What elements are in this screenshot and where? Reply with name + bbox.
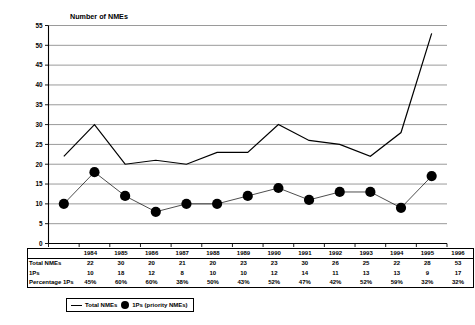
data-point-marker: [243, 191, 253, 201]
table-cell-ip: 11: [320, 269, 351, 278]
chart-legend: Total NMEs 1Ps (priority NMEs): [66, 298, 194, 312]
y-tick-label: 35: [35, 101, 43, 108]
y-tick-label: 55: [35, 22, 43, 29]
table-cell-ip: 10: [228, 269, 259, 278]
data-point-marker: [181, 199, 191, 209]
table-cell-total: 30: [289, 259, 320, 269]
table-cell-pct: 42%: [320, 278, 351, 288]
table-cell-pct: 38%: [167, 278, 198, 288]
table-cell-ip: 13: [351, 269, 382, 278]
y-tick-label: 5: [39, 220, 43, 227]
legend-entry-total-nmes: Total NMEs: [71, 301, 117, 309]
y-tick-label: 25: [35, 141, 43, 148]
circle-marker-icon: [121, 301, 129, 309]
table-row-total-nmes: Total NMEs 22302021202323302625222853: [28, 259, 474, 269]
chart-page: 0510152025303540455055 Number of NMEs 19…: [0, 0, 475, 325]
data-point-marker: [120, 191, 130, 201]
y-tick-label: 50: [35, 42, 43, 49]
table-cell-pct: 45%: [75, 278, 106, 288]
line-chart-svg: 0510152025303540455055 Number of NMEs: [0, 0, 475, 252]
table-cell-total: 20: [198, 259, 229, 269]
table-cell-total: 22: [75, 259, 106, 269]
table-row-ips: 1Ps 101812810101214111313917: [28, 269, 474, 278]
data-table: 1984198519861987198819891990199119921993…: [27, 248, 474, 288]
table-cell-year: 1995: [412, 249, 443, 259]
table-rowhead-percentage-ips: Percentage 1Ps: [28, 278, 76, 288]
data-point-marker: [335, 187, 345, 197]
table-cell-total: 30: [106, 259, 137, 269]
table-rowhead-empty: [28, 249, 76, 259]
table-cell-ip: 13: [381, 269, 412, 278]
table-cell-ip: 18: [106, 269, 137, 278]
table-cell-pct: 60%: [136, 278, 167, 288]
table-cell-total: 26: [320, 259, 351, 269]
table-cell-year: 1989: [228, 249, 259, 259]
table-cell-total: 28: [412, 259, 443, 269]
data-point-marker: [273, 183, 283, 193]
table-cell-ip: 12: [136, 269, 167, 278]
table-cell-ip: 10: [75, 269, 106, 278]
data-point-marker: [396, 203, 406, 213]
table-cell-year: 1984: [75, 249, 106, 259]
table-cell-total: 21: [167, 259, 198, 269]
table-cell-total: 53: [443, 259, 474, 269]
plot-area: 0510152025303540455055 Number of NMEs: [0, 0, 475, 252]
table-cell-ip: 10: [198, 269, 229, 278]
table-cell-total: 22: [381, 259, 412, 269]
table-cell-pct: 60%: [106, 278, 137, 288]
table-row-years: 1984198519861987198819891990199119921993…: [28, 249, 474, 259]
table-cell-year: 1985: [106, 249, 137, 259]
y-tick-label: 40: [35, 81, 43, 88]
table-cell-ip: 17: [443, 269, 474, 278]
table-cell-year: 1993: [351, 249, 382, 259]
table-cell-pct: 47%: [289, 278, 320, 288]
y-tick-label: 0: [39, 240, 43, 247]
table-cell-pct: 32%: [412, 278, 443, 288]
table-cell-ip: 9: [412, 269, 443, 278]
data-point-marker: [212, 199, 222, 209]
table-cell-year: 1992: [320, 249, 351, 259]
legend-entry-priority-nmes: 1Ps (priority NMEs): [121, 301, 187, 309]
table-cell-pct: 50%: [198, 278, 229, 288]
table-cell-year: 1991: [289, 249, 320, 259]
table-cell-year: 1996: [443, 249, 474, 259]
table-cell-year: 1988: [198, 249, 229, 259]
table-cell-ip: 8: [167, 269, 198, 278]
table-cell-pct: 43%: [228, 278, 259, 288]
legend-label-total-nmes: Total NMEs: [85, 301, 117, 309]
y-axis-tick-labels: 0510152025303540455055: [35, 22, 43, 247]
table-cell-ip: 12: [259, 269, 290, 278]
chart-title: Number of NMEs: [70, 12, 128, 21]
table-rowhead-total-nmes: Total NMEs: [28, 259, 76, 269]
table-cell-total: 23: [259, 259, 290, 269]
table-row-percentage-ips: Percentage 1Ps 45%60%60%38%50%43%52%47%4…: [28, 278, 474, 288]
data-point-marker: [59, 199, 69, 209]
table-rowhead-ips: 1Ps: [28, 269, 76, 278]
table-cell-year: 1987: [167, 249, 198, 259]
line-swatch-icon: [71, 305, 82, 306]
table-cell-ip: 14: [289, 269, 320, 278]
table-cell-year: 1986: [136, 249, 167, 259]
table-cell-year: 1990: [259, 249, 290, 259]
table-cell-pct: 32%: [443, 278, 474, 288]
table-cell-pct: 52%: [351, 278, 382, 288]
y-tick-label: 30: [35, 121, 43, 128]
data-point-marker: [304, 195, 314, 205]
data-point-marker: [151, 207, 161, 217]
data-point-marker: [427, 171, 437, 181]
table-cell-pct: 59%: [381, 278, 412, 288]
table-cell-total: 20: [136, 259, 167, 269]
data-point-marker: [365, 187, 375, 197]
data-point-marker: [89, 167, 99, 177]
table-cell-pct: 52%: [259, 278, 290, 288]
y-tick-label: 10: [35, 200, 43, 207]
table-cell-total: 25: [351, 259, 382, 269]
y-tick-label: 20: [35, 161, 43, 168]
legend-label-priority-nmes: 1Ps (priority NMEs): [132, 301, 187, 309]
y-tick-label: 15: [35, 180, 43, 187]
series-markers-priority-nmes: [59, 167, 437, 217]
y-tick-label: 45: [35, 61, 43, 68]
table-cell-total: 23: [228, 259, 259, 269]
table-cell-year: 1994: [381, 249, 412, 259]
